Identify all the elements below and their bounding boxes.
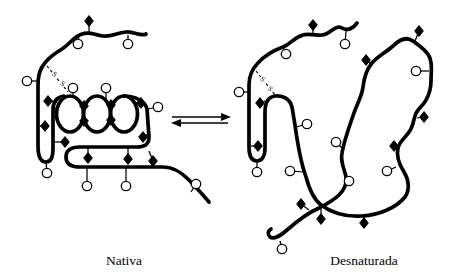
polar-group-icon (123, 39, 132, 48)
nonpolar-group-icon (61, 137, 70, 148)
polar-group-icon (234, 87, 243, 96)
nonpolar-group-icon (309, 20, 318, 31)
arrow-right-head-icon (221, 113, 231, 121)
nonpolar-group-icon (149, 156, 158, 167)
native-label: Nativa (106, 253, 142, 268)
nonpolar-group-icon (84, 153, 93, 164)
arrow-left-head-icon (171, 119, 181, 127)
nonpolar-group-icon (415, 26, 424, 37)
polar-group-icon (281, 49, 290, 58)
denatured-structure: S S (234, 20, 431, 254)
figure-canvas: S S S S Nativa Desnaturada (0, 0, 453, 279)
polar-group-icon (101, 83, 110, 92)
polar-group-icon (340, 39, 349, 48)
polar-group-icon (82, 181, 91, 190)
polar-group-icon (252, 167, 261, 176)
polar-group-icon (22, 76, 31, 85)
nonpolar-group-icon (254, 141, 263, 152)
native-structure: S S (22, 16, 209, 202)
nonpolar-group-icon (124, 154, 133, 165)
polar-group-icon (191, 179, 200, 188)
native-helix-loop (84, 96, 111, 132)
polar-group-icon (302, 119, 311, 128)
polar-group-icon (68, 83, 77, 92)
equilibrium-arrow-reverse (171, 119, 228, 127)
polar-group-icon (121, 181, 130, 190)
protein-denaturation-diagram: S S S S Nativa Desnaturada (0, 0, 453, 279)
nonpolar-group-icon (256, 98, 265, 109)
denatured-backbone (249, 23, 432, 238)
polar-group-icon (153, 102, 162, 111)
nonpolar-group-icon (297, 199, 306, 210)
polar-group-icon (331, 137, 340, 146)
denatured-label: Desnaturada (330, 253, 397, 268)
polar-group-icon (42, 168, 51, 177)
nonpolar-group-icon (85, 16, 94, 27)
nonpolar-group-icon (420, 112, 429, 123)
equilibrium-arrow (171, 113, 231, 127)
nonpolar-group-icon (362, 55, 371, 66)
polar-group-icon (344, 176, 353, 185)
polar-group-icon (73, 39, 82, 48)
nonpolar-group-icon (41, 121, 50, 132)
polar-group-icon (285, 166, 294, 175)
native-helix-loop (57, 96, 84, 132)
nonpolar-group-icon (139, 132, 148, 143)
polar-group-icon (382, 166, 391, 175)
polar-group-icon (277, 244, 286, 253)
disulfide-s-label: S (58, 79, 67, 89)
nonpolar-group-icon (44, 96, 53, 107)
native-helix-loop (111, 96, 138, 132)
polar-group-icon (411, 66, 420, 75)
nonpolar-group-icon (317, 214, 326, 225)
nonpolar-group-icon (360, 218, 369, 229)
